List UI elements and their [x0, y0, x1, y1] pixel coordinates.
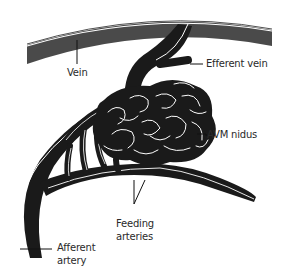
avm-diagram: Vein Efferent vein AVM nidus Feeding art…: [0, 0, 290, 278]
label-avm-nidus: AVM nidus: [207, 129, 257, 141]
label-afferent-artery-line2: artery: [57, 255, 86, 267]
label-afferent-artery-line1: Afferent: [57, 242, 95, 254]
feeding-arteries-leader-2: [134, 180, 145, 204]
label-efferent-vein: Efferent vein: [206, 58, 268, 70]
avm-nidus: [93, 80, 216, 166]
label-feeding-arteries-line2: arteries: [116, 231, 153, 243]
label-feeding-arteries-line1: Feeding: [116, 218, 154, 230]
label-vein: Vein: [67, 67, 88, 79]
